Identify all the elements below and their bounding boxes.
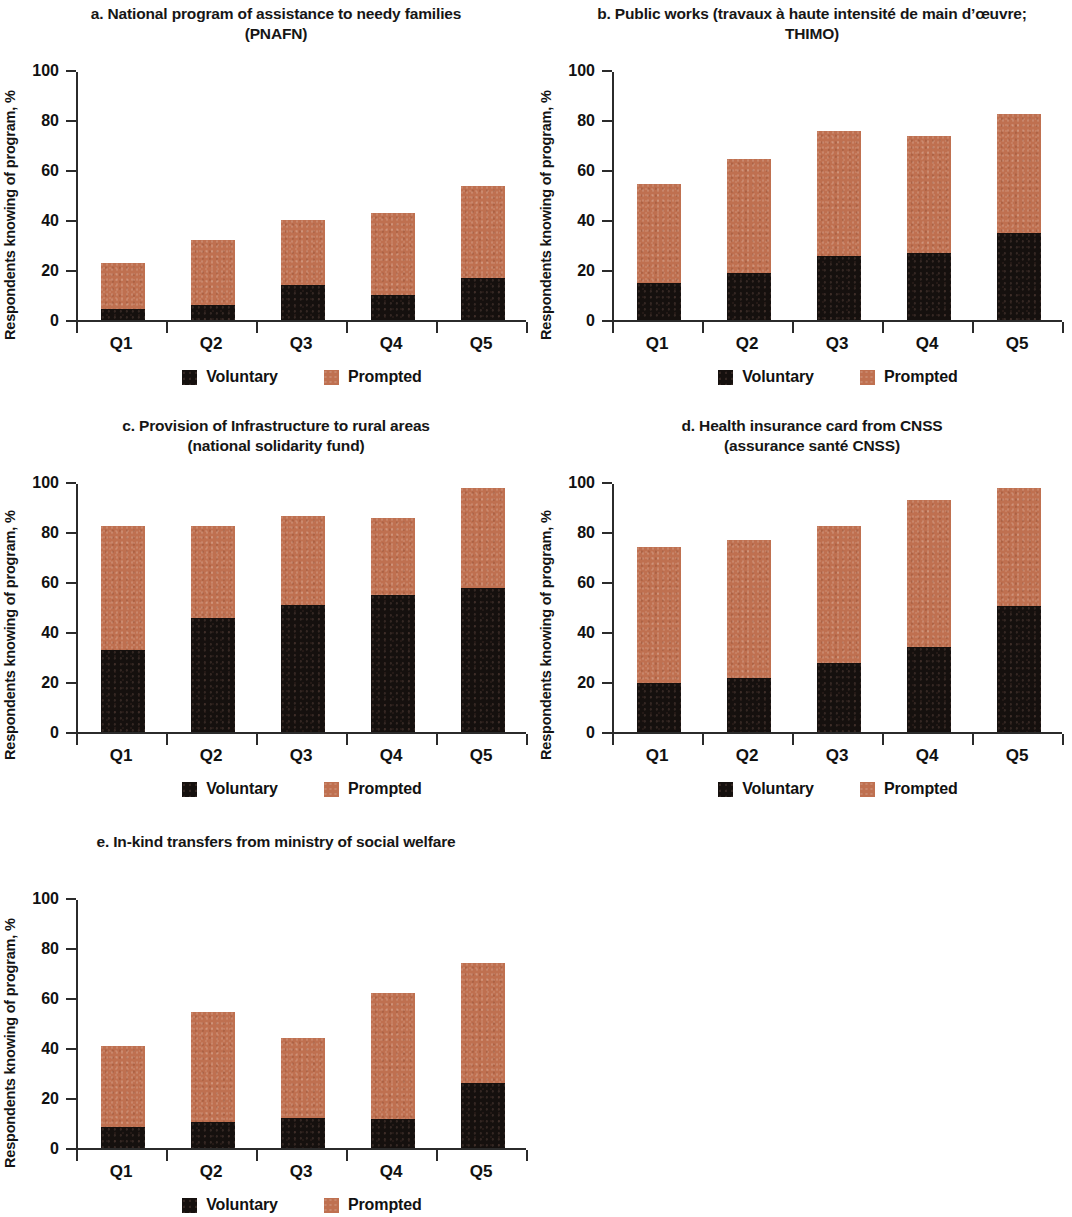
panel-d-x-tick-4 <box>972 734 974 745</box>
panel-b-legend: VoluntaryPrompted <box>612 366 1064 388</box>
panel-a-x-axis-labels: Q1Q2Q3Q4Q5 <box>76 334 528 358</box>
panel-a-bar-q4 <box>371 213 415 321</box>
panel-c-title: c. Provision of Infrastructure to rural … <box>26 416 526 456</box>
panel-a-x-tick-1 <box>166 322 168 333</box>
panel-a-x-axis-line <box>76 320 526 322</box>
panel-e-bar-q3-voluntary-segment <box>281 1118 325 1148</box>
panel-b-x-label-q1: Q1 <box>627 334 687 354</box>
panel-d-y-tick-20: 20 <box>602 682 612 684</box>
panel-e-y-tick-100: 100 <box>66 898 76 900</box>
panel-a-x-label-q4: Q4 <box>361 334 421 354</box>
panel-e-legend-swatch-prompted-icon <box>324 1198 339 1213</box>
panel-e-legend-label-prompted: Prompted <box>348 1196 422 1214</box>
panel-b-bar-q4 <box>907 136 951 320</box>
panel-e-bar-q5-voluntary-segment <box>461 1083 505 1148</box>
panel-c-legend: VoluntaryPrompted <box>76 778 528 800</box>
panel-e-x-tick-3 <box>346 1150 348 1161</box>
panel-e-legend-label-voluntary: Voluntary <box>206 1196 278 1214</box>
panel-b-y-tick-80: 80 <box>602 120 612 122</box>
panel-c-bar-q3-voluntary-segment <box>281 605 325 733</box>
panel-d-y-tick-100: 100 <box>602 482 612 484</box>
panel-c-y-tick-0: 0 <box>66 732 76 734</box>
panel-a-bar-q5 <box>461 186 505 320</box>
panel-a-legend-label-voluntary: Voluntary <box>206 368 278 386</box>
panel-a-y-tick-40: 40 <box>66 220 76 222</box>
panel-e-bar-q4 <box>371 993 415 1148</box>
panel-d-x-tick-0 <box>612 734 614 745</box>
panel-a-x-tick-5 <box>526 322 528 333</box>
panel-c-x-label-q2: Q2 <box>181 746 241 766</box>
panel-d-bar-q4 <box>907 500 951 733</box>
panel-c-y-axis-label: Respondents knowing of program, % <box>2 500 24 760</box>
panel-d-x-axis-line <box>612 732 1062 734</box>
panel-e-x-label-q4: Q4 <box>361 1162 421 1182</box>
panel-b-bar-q5-voluntary-segment <box>997 233 1041 321</box>
panel-d-y-tick-40: 40 <box>602 632 612 634</box>
panel-b-bar-q2 <box>727 159 771 320</box>
panel-a-x-tick-3 <box>346 322 348 333</box>
panel-e-bar-q1 <box>101 1046 145 1149</box>
panel-e-x-label-q2: Q2 <box>181 1162 241 1182</box>
panel-b-title-line2: THIMO) <box>562 24 1062 44</box>
panel-a-y-tick-20: 20 <box>66 270 76 272</box>
panel-b-x-tick-2 <box>792 322 794 333</box>
panel-a-y-tick-label-40: 40 <box>41 212 59 230</box>
panel-c-x-label-q3: Q3 <box>271 746 331 766</box>
panel-c-x-label-q5: Q5 <box>451 746 511 766</box>
panel-a-x-label-q1: Q1 <box>91 334 151 354</box>
panel-a-legend: VoluntaryPrompted <box>76 366 528 388</box>
panel-d-x-tick-3 <box>882 734 884 745</box>
panel-a-y-tick-80: 80 <box>66 120 76 122</box>
panel-a-bar-q2-voluntary-segment <box>191 305 235 320</box>
panel-d: d. Health insurance card from CNSS(assur… <box>536 412 1072 817</box>
panel-a-bars <box>78 72 526 320</box>
panel-d-legend: VoluntaryPrompted <box>612 778 1064 800</box>
panel-d-y-tick-0: 0 <box>602 732 612 734</box>
panel-c-legend-swatch-prompted-icon <box>324 782 339 797</box>
panel-c-y-tick-40: 40 <box>66 632 76 634</box>
panel-a-x-tick-0 <box>76 322 78 333</box>
panel-d-bar-q2-voluntary-segment <box>727 678 771 732</box>
panel-d-bar-q3 <box>817 526 861 732</box>
panel-c-y-tick-label-60: 60 <box>41 574 59 592</box>
panel-a-legend-swatch-prompted-icon <box>324 370 339 385</box>
panel-e-plot-area: 020406080100 <box>76 900 526 1150</box>
panel-b-x-axis-labels: Q1Q2Q3Q4Q5 <box>612 334 1064 358</box>
panel-b-legend-item-voluntary: Voluntary <box>718 368 814 386</box>
panel-a-bar-q2 <box>191 240 235 320</box>
panel-b-x-tick-4 <box>972 322 974 333</box>
panel-e-title-line1: e. In-kind transfers from ministry of so… <box>96 833 455 850</box>
panel-e-bar-q2-voluntary-segment <box>191 1122 235 1148</box>
panel-b-bar-q3 <box>817 131 861 320</box>
panel-e-y-tick-label-0: 0 <box>50 1140 59 1158</box>
panel-b-legend-swatch-voluntary-icon <box>718 370 733 385</box>
panel-d-y-tick-label-20: 20 <box>577 674 595 692</box>
panel-d-y-tick-label-40: 40 <box>577 624 595 642</box>
panel-d-y-tick-60: 60 <box>602 582 612 584</box>
panel-a-y-tick-label-60: 60 <box>41 162 59 180</box>
panel-a-legend-label-prompted: Prompted <box>348 368 422 386</box>
panel-c-x-tick-2 <box>256 734 258 745</box>
panel-b-title-line1: b. Public works (travaux à haute intensi… <box>597 5 1027 22</box>
panel-a-legend-item-prompted: Prompted <box>324 368 422 386</box>
panel-c-x-tick-5 <box>526 734 528 745</box>
panel-e: e. In-kind transfers from ministry of so… <box>0 828 536 1217</box>
panel-c-bars <box>78 484 526 732</box>
panel-b-bar-q3-voluntary-segment <box>817 256 861 320</box>
panel-a-x-label-q3: Q3 <box>271 334 331 354</box>
panel-d-legend-swatch-voluntary-icon <box>718 782 733 797</box>
panel-b-y-tick-40: 40 <box>602 220 612 222</box>
panel-c-y-tick-label-20: 20 <box>41 674 59 692</box>
panel-e-y-tick-60: 60 <box>66 998 76 1000</box>
panel-b-y-tick-0: 0 <box>602 320 612 322</box>
panel-b-x-axis-line <box>612 320 1062 322</box>
panel-e-x-tick-5 <box>526 1150 528 1161</box>
panel-b-bars <box>614 72 1062 320</box>
panel-d-plot-area: 020406080100 <box>612 484 1062 734</box>
panel-c-y-tick-label-80: 80 <box>41 524 59 542</box>
panel-e-y-tick-20: 20 <box>66 1098 76 1100</box>
panel-a-y-tick-label-20: 20 <box>41 262 59 280</box>
panel-b-legend-swatch-prompted-icon <box>860 370 875 385</box>
panel-e-x-tick-1 <box>166 1150 168 1161</box>
